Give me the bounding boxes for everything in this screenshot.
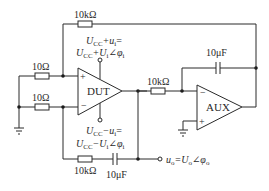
resistor-in-top [35,73,49,79]
svg-text:−: − [200,87,206,98]
svg-text:+: + [80,71,86,82]
output-terminal [158,157,162,161]
resistor-in-bottom [35,104,49,110]
dut-label: DUT [87,85,110,97]
svg-text:UCC−ui=: UCC−ui= [86,125,122,138]
supply-neg-annotation: UCC−ui= UCC−Ui∠φi [76,125,124,151]
output-annotation: uo=Uo∠φo [166,154,210,167]
ground-icon-left [14,128,24,134]
aux-label: AUX [206,101,230,113]
svg-text:uo=Uo∠φo: uo=Uo∠φo [166,154,210,167]
label-r-in-bottom: 10Ω [32,92,49,103]
label-r-in-top: 10Ω [32,61,49,72]
label-c-aux: 10μF [206,47,227,58]
svg-text:−: − [81,100,87,111]
label-r-feedback-top: 10kΩ [74,9,96,20]
resistor-feedback-top [78,21,92,27]
supply-pos-annotation: UCC+ui= UCC+Ui∠φi [76,35,124,60]
resistor-aux-in [151,88,165,94]
circuit-diagram: + − DUT − + AUX 10Ω 10Ω 10kΩ 10kΩ 10kΩ 1… [0,0,269,191]
label-c-bottom: 10μF [106,169,127,180]
label-r-aux-in: 10kΩ [147,76,169,87]
resistor-feedback-bottom [78,156,92,162]
aux-network: − + AUX [138,62,256,136]
ground-icon-aux [178,130,188,136]
svg-text:+: + [199,116,205,127]
svg-text:UCC−Ui∠φi: UCC−Ui∠φi [76,138,124,151]
input-network [14,73,78,134]
label-r-feedback-bottom: 10kΩ [74,165,96,176]
